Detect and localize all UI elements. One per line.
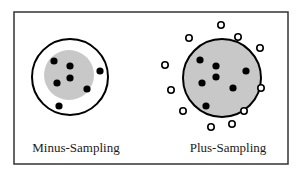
filled-point xyxy=(212,62,219,69)
filled-point xyxy=(212,73,219,80)
open-point xyxy=(162,62,168,68)
open-point xyxy=(208,124,214,130)
filled-point xyxy=(83,85,90,92)
plus-sampling-panel: Plus-Sampling xyxy=(162,22,267,155)
sampling-diagram: Minus-SamplingPlus-Sampling xyxy=(0,0,302,172)
filled-point xyxy=(202,102,209,109)
filled-point xyxy=(50,57,57,64)
filled-point xyxy=(96,67,103,74)
open-point xyxy=(257,45,263,51)
filled-point xyxy=(66,74,73,81)
open-point xyxy=(241,108,247,114)
open-point xyxy=(186,35,192,41)
filled-point xyxy=(242,67,249,74)
filled-point xyxy=(198,79,205,86)
filled-point xyxy=(53,79,60,86)
open-point xyxy=(229,121,235,127)
minus-sampling-panel: Minus-Sampling xyxy=(32,39,120,155)
filled-point xyxy=(66,62,73,69)
plus-sampling-label: Plus-Sampling xyxy=(190,140,267,155)
open-point xyxy=(180,108,186,114)
open-point xyxy=(218,22,224,28)
open-point xyxy=(235,34,241,40)
filled-point xyxy=(55,102,62,109)
minus-sampling-label: Minus-Sampling xyxy=(32,140,120,155)
open-point xyxy=(258,85,264,91)
open-point xyxy=(168,87,174,93)
filled-point xyxy=(229,84,236,91)
filled-point xyxy=(196,56,203,63)
